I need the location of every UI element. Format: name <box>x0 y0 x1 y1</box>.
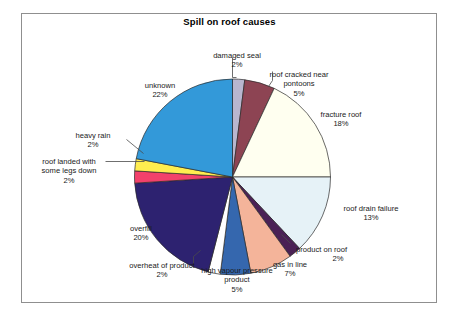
slice-label-high-vapour-value: 5% <box>185 285 289 294</box>
slice-label-fracture-roof-text: fracture roof <box>303 110 379 119</box>
slice-label-damaged-seal-text: damaged seal <box>200 51 274 60</box>
slice-label-overheat-of-product: overheat of product 2% <box>119 261 205 280</box>
slice-label-product-on-roof-text: product on roof <box>296 245 380 254</box>
slice-label-unknown-text: unknown <box>131 81 189 90</box>
slice-label-roof-drain-failure-value: 13% <box>325 213 417 222</box>
slice-label-unknown-value: 22% <box>131 90 189 99</box>
slice-label-fracture-roof-value: 18% <box>303 119 379 128</box>
slice-label-heavy-rain: heavy rain 2% <box>62 131 124 150</box>
slice-label-overfill-value: 20% <box>115 233 167 242</box>
slice-label-damaged-seal: damaged seal 2% <box>200 51 274 70</box>
slice-label-roof-cracked-near-pontoons: roof cracked near pontoons 5% <box>253 70 345 98</box>
slice-label-heavy-rain-value: 2% <box>62 140 124 149</box>
slice-label-overfill-text: overfill <box>115 224 167 233</box>
slice-label-roof-drain-failure-text: roof drain failure <box>325 204 417 213</box>
slice-label-roof-drain-failure: roof drain failure 13% <box>325 204 417 223</box>
slice-label-roof-cracked-text2: pontoons <box>253 79 345 88</box>
slice-label-roof-cracked-value: 5% <box>253 89 345 98</box>
slice-label-roof-landed-text2: some legs down <box>33 166 105 175</box>
slice-label-overheat-value: 2% <box>119 270 205 279</box>
slice-label-unknown: unknown 22% <box>131 81 189 100</box>
chart-page: Spill on roof causes damaged seal 2% roo… <box>0 0 459 323</box>
slice-label-roof-landed-with-some-legs-down: roof landed with some legs down 2% <box>33 157 105 185</box>
slice-label-roof-landed-text1: roof landed with <box>33 157 105 166</box>
slice-label-roof-landed-value: 2% <box>33 176 105 185</box>
slice-label-roof-cracked-text1: roof cracked near <box>253 70 345 79</box>
slice-label-damaged-seal-value: 2% <box>200 60 274 69</box>
slice-label-fracture-roof: fracture roof 18% <box>303 110 379 129</box>
slice-label-overheat-text: overheat of product <box>119 261 205 270</box>
slice-label-heavy-rain-text: heavy rain <box>62 131 124 140</box>
slice-label-overfill: overfill 20% <box>115 224 167 243</box>
